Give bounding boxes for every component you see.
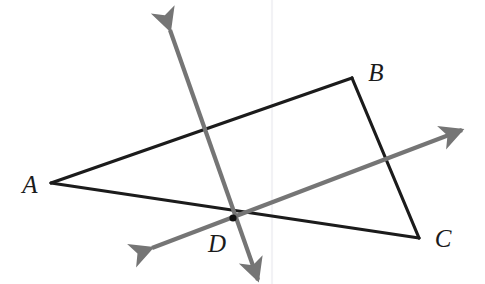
geometry-canvas	[0, 0, 485, 284]
vertex-label-d: D	[208, 231, 226, 256]
vertex-label-b: B	[368, 60, 383, 85]
point-d-marker	[229, 214, 236, 221]
intersecting-rays	[152, 30, 462, 280]
vertex-label-c: C	[435, 226, 452, 251]
vertex-label-a: A	[22, 172, 37, 197]
geometry-figure: A B C D	[0, 0, 485, 284]
triangle-edge-ab	[51, 78, 352, 183]
